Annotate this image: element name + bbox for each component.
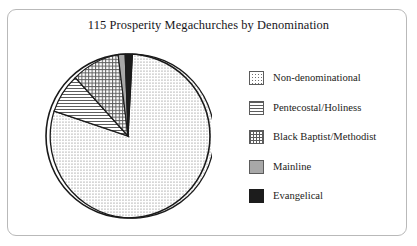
legend-swatch-gray-icon <box>249 160 264 174</box>
figure-container: 115 Prosperity Megachurches by Denominat… <box>0 0 417 246</box>
legend-item-black-baptist-methodist: Black Baptist/Methodist <box>249 129 399 159</box>
chart-title: 115 Prosperity Megachurches by Denominat… <box>0 18 417 33</box>
legend-swatch-hlines-icon <box>249 101 264 115</box>
legend-item-mainline: Mainline <box>249 159 399 189</box>
legend-swatch-dots-icon <box>249 71 264 85</box>
legend-label: Non-denominational <box>273 70 361 85</box>
legend: Non-denominational Pentecostal/Holiness … <box>249 70 399 218</box>
legend-item-evangelical: Evangelical <box>249 188 399 218</box>
legend-item-pentecostal-holiness: Pentecostal/Holiness <box>249 100 399 130</box>
legend-swatch-grid-icon <box>249 130 264 144</box>
pie-chart-svg <box>44 52 212 220</box>
legend-label: Black Baptist/Methodist <box>273 129 376 144</box>
legend-item-non-denominational: Non-denominational <box>249 70 399 100</box>
legend-label: Mainline <box>273 159 311 174</box>
legend-label: Pentecostal/Holiness <box>273 100 361 115</box>
legend-label: Evangelical <box>273 188 323 203</box>
pie-chart <box>44 52 212 220</box>
legend-swatch-black-icon <box>249 189 264 203</box>
